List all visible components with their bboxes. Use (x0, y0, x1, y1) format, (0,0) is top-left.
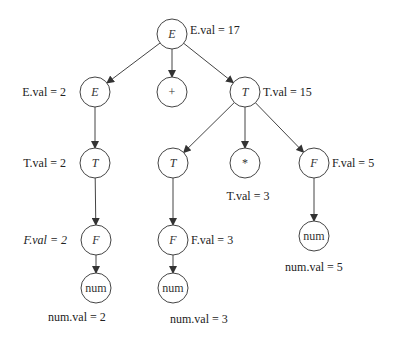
parse-tree: EE.val = 17EE.val = 2+TT.val = 15TT.val … (0, 0, 394, 338)
node-F3: FF.val = 5 (299, 148, 374, 178)
node-label: E.val = 2 (22, 85, 66, 99)
node-num3: numnum.val = 5 (285, 221, 343, 274)
node-T2: TT.val = 2 (23, 148, 110, 178)
node-label: F.val = 2 (22, 233, 67, 247)
node-symbol: * (242, 156, 248, 170)
edge-root-E-E1 (107, 43, 160, 83)
node-label: num.val = 3 (170, 312, 228, 326)
node-plus: + (157, 77, 187, 107)
node-F2: FF.val = 3 (158, 225, 233, 255)
node-symbol: F (309, 156, 318, 170)
node-num1: numnum.val = 2 (48, 273, 111, 324)
node-num2: numnum.val = 3 (158, 273, 228, 326)
node-symbol: + (169, 85, 176, 99)
node-symbol: num (303, 229, 325, 243)
edge-root-E-T1 (184, 43, 234, 82)
node-label: E.val = 17 (190, 23, 240, 37)
edge-T1-T3 (184, 103, 235, 153)
node-star: *T.val = 3 (227, 148, 270, 203)
node-symbol: num (162, 281, 184, 295)
node-symbol: F (91, 233, 100, 247)
node-symbol: E (90, 85, 99, 99)
node-label: T.val = 3 (227, 189, 270, 203)
node-root-E: EE.val = 17 (157, 19, 240, 49)
node-E1: EE.val = 2 (22, 77, 110, 107)
node-symbol: E (167, 27, 176, 41)
edge-T1-F3 (255, 103, 303, 152)
node-label: num.val = 2 (48, 310, 106, 324)
node-label: F.val = 5 (332, 156, 374, 170)
node-symbol: F (168, 233, 177, 247)
node-symbol: num (85, 281, 107, 295)
edge-T2-F1 (95, 178, 96, 225)
node-label: num.val = 5 (285, 260, 343, 274)
node-label: T.val = 2 (23, 156, 66, 170)
node-T1: TT.val = 15 (230, 77, 312, 107)
node-T3: T (158, 148, 188, 178)
node-label: F.val = 3 (191, 233, 233, 247)
node-label: T.val = 15 (263, 85, 312, 99)
node-F1: FF.val = 2 (22, 225, 111, 255)
